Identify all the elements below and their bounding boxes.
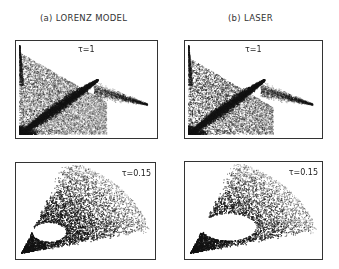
panel-lorenz-tau1: τ=1: [15, 40, 158, 139]
tau-label: τ=0.15: [122, 169, 151, 178]
scatter-plot: [185, 41, 322, 138]
panel-lorenz-tau015: τ=0.15: [15, 162, 156, 260]
column-title-laser: (b) LASER: [228, 13, 273, 23]
panel-laser-tau015: τ=0.15: [184, 161, 323, 260]
column-title-lorenz: (a) LORENZ MODEL: [40, 13, 127, 23]
tau-label: τ=1: [78, 45, 95, 54]
tau-label: τ=1: [245, 45, 262, 54]
scatter-plot: [16, 41, 157, 138]
panel-laser-tau1: τ=1: [184, 40, 323, 139]
tau-label: τ=0.15: [289, 168, 318, 177]
